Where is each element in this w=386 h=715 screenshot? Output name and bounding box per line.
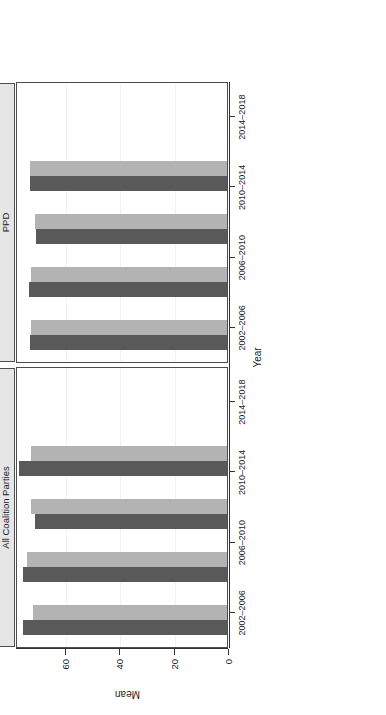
- x-axis-title: Year: [252, 0, 263, 715]
- bar-coalition: [30, 177, 227, 192]
- x-axis-tick-label: 2006–2010: [237, 520, 247, 565]
- x-axis-tick-label: 2014–2018: [237, 95, 247, 140]
- bar-party: [31, 500, 227, 515]
- y-axis-tick-label: 20: [168, 659, 179, 670]
- chart-figure: Loyalty toward Coalition Loyalty toward …: [0, 0, 386, 715]
- bar-coalition: [19, 462, 227, 477]
- x-axis-line: [229, 82, 230, 648]
- bar-party: [30, 162, 227, 177]
- x-axis-tick-label: 2002–2006: [237, 590, 247, 635]
- panel-ppd: PPD: [16, 82, 228, 363]
- x-axis-tick: [230, 257, 235, 258]
- x-axis-tick: [230, 612, 235, 613]
- bar-party: [31, 447, 227, 462]
- bar-coalition: [23, 568, 227, 583]
- bar-coalition: [29, 283, 227, 298]
- bar-coalition: [35, 515, 227, 530]
- bar-party: [33, 606, 227, 621]
- y-axis-tick-label: 40: [114, 659, 125, 670]
- y-axis-title: Mean: [22, 689, 234, 700]
- panel-strip-ppd: PPD: [0, 83, 15, 362]
- bar-party: [35, 215, 227, 230]
- x-axis-tick: [230, 542, 235, 543]
- x-axis-tick-label: 2010–2014: [237, 165, 247, 210]
- rotated-figure-wrapper: Loyalty toward Coalition Loyalty toward …: [0, 0, 386, 715]
- plot-area: All Coalition Parties PPD: [16, 82, 228, 648]
- panel-inner-right: [17, 83, 227, 362]
- bar-coalition: [30, 336, 227, 351]
- y-axis-tick: [65, 649, 66, 655]
- y-axis-tick: [119, 649, 120, 655]
- bar-coalition: [23, 621, 227, 636]
- y-axis-tick: [174, 649, 175, 655]
- x-axis-tick: [230, 327, 235, 328]
- x-axis-tick: [230, 116, 235, 117]
- x-axis-tick-label: 2014–2018: [237, 380, 247, 425]
- bar-party: [31, 268, 227, 283]
- y-axis-tick-label: 0: [223, 659, 234, 664]
- x-axis-tick-label: 2006–2010: [237, 235, 247, 280]
- bar-party: [27, 553, 227, 568]
- panel-strip-label-left: All Coalition Parties: [0, 466, 11, 548]
- panel-strip-label-right: PPD: [0, 213, 11, 233]
- x-axis-tick: [230, 186, 235, 187]
- y-axis-tick: [228, 649, 229, 655]
- x-axis-tick: [230, 471, 235, 472]
- panel-all-coalition-parties: All Coalition Parties: [16, 367, 228, 648]
- y-axis-tick-label: 60: [59, 659, 70, 670]
- x-axis-tick: [230, 401, 235, 402]
- panel-strip-all-coalition-parties: All Coalition Parties: [0, 368, 15, 647]
- bar-coalition: [36, 230, 227, 245]
- bar-party: [31, 321, 227, 336]
- x-axis-tick-label: 2002–2006: [237, 305, 247, 350]
- x-axis-tick-label: 2010–2014: [237, 450, 247, 495]
- y-axis-line: [16, 648, 228, 649]
- panel-inner-left: [17, 368, 227, 647]
